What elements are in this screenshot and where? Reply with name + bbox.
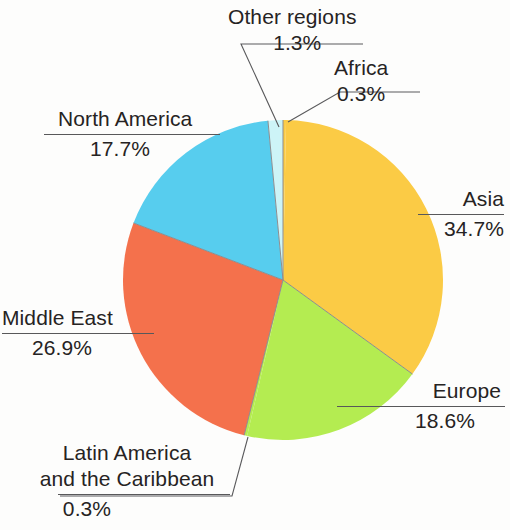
slice-label-latin-america-rule [58,494,230,495]
pie-chart-figure: Other regions 1.3% Africa 0.3% Asia 34.7… [0,0,510,530]
slice-label-middle-east-rule [2,333,154,334]
slice-label-asia: Asia 34.7% [424,186,504,242]
slice-label-latin-america-name-line2: and the Caribbean [24,466,230,492]
slice-label-asia-value: 34.7% [424,216,504,242]
slice-label-africa-value: 0.3% [334,81,388,107]
slice-label-asia-name: Asia [424,186,504,212]
slice-label-north-america: North America 17.7% [50,106,220,162]
slice-label-europe: Europe 18.6% [337,378,505,434]
slice-label-latin-america-name-line1: Latin America [24,440,230,466]
slice-label-north-america-value: 17.7% [50,136,220,162]
slice-label-middle-east-name: Middle East [2,305,154,331]
slice-label-middle-east: Middle East 26.9% [2,305,154,361]
slice-label-europe-name: Europe [337,378,505,404]
slice-label-latin-america: Latin America and the Caribbean 0.3% [24,440,230,522]
slice-label-north-america-rule [44,134,220,135]
slice-label-north-america-name: North America [50,106,220,132]
slice-label-africa: Africa 0.3% [334,55,388,107]
slice-label-europe-rule [337,406,505,407]
slice-label-europe-value: 18.6% [337,408,505,434]
slice-label-latin-america-value: 0.3% [24,496,230,522]
slice-label-asia-rule [418,214,504,215]
slice-label-other-regions-value: 1.3% [228,30,357,56]
slice-label-other-regions-name: Other regions [228,4,357,30]
slice-label-other-regions: Other regions 1.3% [228,4,357,56]
slice-label-middle-east-value: 26.9% [2,335,154,361]
slice-label-africa-name: Africa [334,55,388,81]
